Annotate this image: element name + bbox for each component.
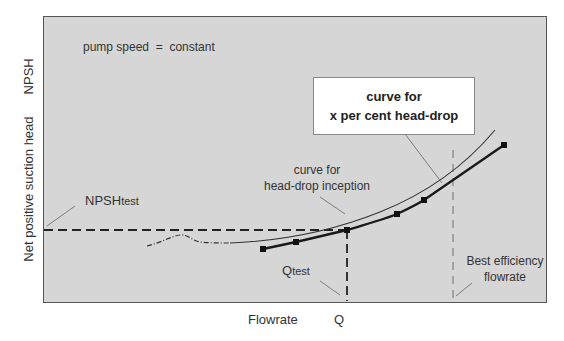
inception-leader bbox=[320, 197, 345, 214]
npsh-test-leader bbox=[47, 206, 75, 226]
x-axis-symbol: Q bbox=[334, 312, 344, 327]
best-efficiency-label: Best efficiency flowrate bbox=[460, 253, 550, 285]
callout-box: curve for x per cent head-drop bbox=[313, 77, 475, 135]
best-efficiency-line1: Best efficiency bbox=[460, 253, 550, 269]
npsh-test-label: NPSHtest bbox=[85, 193, 139, 208]
npsh-test-sub: test bbox=[121, 195, 139, 207]
best-efficiency-line2: flowrate bbox=[460, 269, 550, 285]
inception-curve-dashed bbox=[147, 235, 230, 246]
y-axis-symbol: NPSH bbox=[21, 58, 36, 94]
inception-label: curve for head-drop inception bbox=[252, 162, 382, 194]
condition-label: pump speed = constant bbox=[83, 40, 215, 54]
q-test-main: Q bbox=[282, 263, 292, 278]
q-test-sub: test bbox=[292, 265, 310, 277]
inception-line2: head-drop inception bbox=[252, 178, 382, 194]
callout-line2: x per cent head-drop bbox=[314, 106, 474, 125]
q-test-leader bbox=[320, 281, 340, 295]
x-axis-title: Flowrate bbox=[248, 312, 298, 327]
head-drop-curve bbox=[263, 145, 504, 249]
npsh-test-main: NPSH bbox=[85, 193, 121, 208]
y-axis-label: Net positive suction headNPSH bbox=[21, 58, 36, 261]
y-axis-title: Net positive suction head bbox=[21, 116, 36, 261]
q-test-label: Qtest bbox=[282, 263, 310, 278]
inception-line1: curve for bbox=[252, 162, 382, 178]
callout-leader bbox=[405, 134, 442, 183]
callout-line1: curve for bbox=[314, 87, 474, 106]
